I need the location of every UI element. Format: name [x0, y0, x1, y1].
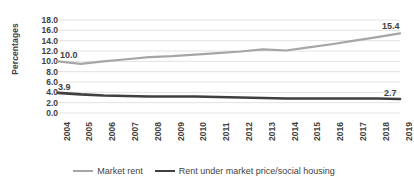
legend-swatch-icon [155, 170, 175, 172]
value-label: 2.7 [384, 88, 397, 98]
legend-swatch-icon [73, 170, 93, 172]
value-label: 3.9 [58, 82, 71, 92]
legend-item-0[interactable]: Market rent [73, 166, 143, 176]
legend-label: Market rent [97, 166, 143, 176]
legend-label: Rent under market price/social housing [179, 166, 335, 176]
chart-legend: Market rentRent under market price/socia… [0, 166, 408, 176]
value-label: 10.0 [60, 50, 78, 60]
value-label: 15.4 [382, 21, 400, 31]
legend-item-1[interactable]: Rent under market price/social housing [155, 166, 335, 176]
